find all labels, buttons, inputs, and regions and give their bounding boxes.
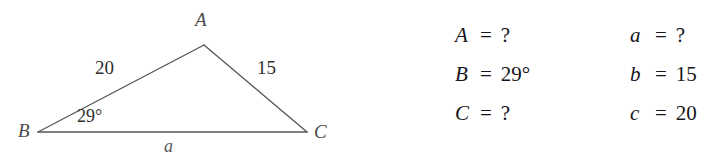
- angle-value-B: 29°: [501, 62, 530, 87]
- angle-name-B: B: [455, 62, 471, 87]
- equals-sign: =: [480, 62, 492, 87]
- equation-row-angle-B: B = 29°: [455, 55, 530, 94]
- given-values-panel: A = ? B = 29° C = ? a = ? b: [440, 0, 707, 165]
- angle-measure-label-B: 29°: [77, 107, 102, 125]
- equation-row-side-c: c = 20: [630, 94, 697, 133]
- side-value-c: 20: [676, 101, 697, 126]
- equation-row-side-a: a = ?: [630, 16, 697, 55]
- angles-column: A = ? B = 29° C = ?: [455, 16, 530, 133]
- triangle-problem-figure: A B C 20 15 29° a A = ? B = 29° C = ?: [0, 0, 707, 165]
- equation-row-angle-A: A = ?: [455, 16, 530, 55]
- side-length-label-AC: 15: [257, 58, 276, 77]
- equation-row-angle-C: C = ?: [455, 94, 530, 133]
- side-name-a: a: [630, 23, 646, 48]
- side-length-label-BA: 20: [95, 58, 114, 77]
- vertex-label-C: C: [314, 122, 327, 141]
- angle-value-C: ?: [501, 101, 510, 126]
- equals-sign: =: [480, 23, 492, 48]
- triangle-edge-AC: [204, 45, 307, 132]
- triangle-edge-BA: [38, 45, 204, 132]
- angle-value-A: ?: [501, 23, 510, 48]
- sides-column: a = ? b = 15 c = 20: [630, 16, 697, 133]
- vertex-label-A: A: [195, 10, 207, 29]
- equals-sign: =: [480, 101, 492, 126]
- triangle-shape: [0, 0, 360, 165]
- equals-sign: =: [655, 62, 667, 87]
- triangle-diagram-panel: A B C 20 15 29° a: [0, 0, 360, 165]
- side-value-b: 15: [676, 62, 697, 87]
- equals-sign: =: [655, 23, 667, 48]
- side-name-b: b: [630, 62, 646, 87]
- equals-sign: =: [655, 101, 667, 126]
- side-value-a: ?: [676, 23, 685, 48]
- side-name-c: c: [630, 101, 646, 126]
- equation-row-side-b: b = 15: [630, 55, 697, 94]
- vertex-label-B: B: [18, 121, 30, 140]
- angle-name-C: C: [455, 101, 471, 126]
- side-length-label-BC: a: [164, 137, 173, 155]
- angle-name-A: A: [455, 23, 471, 48]
